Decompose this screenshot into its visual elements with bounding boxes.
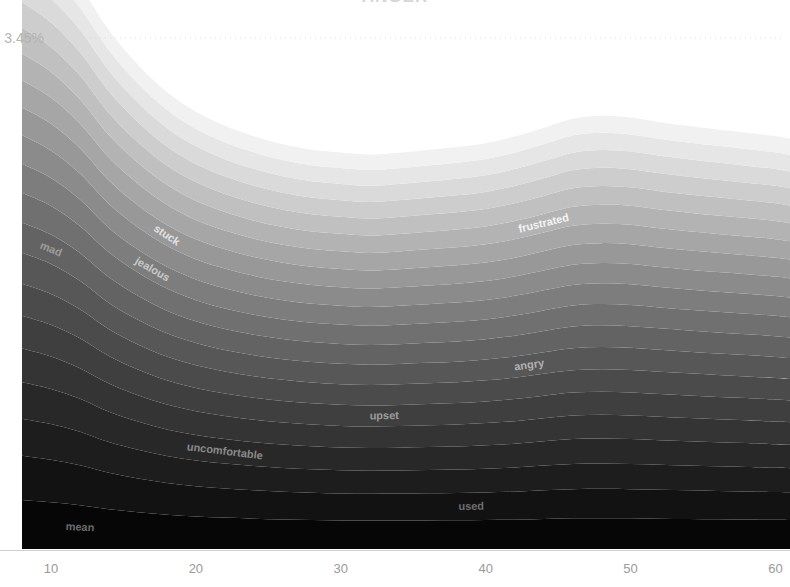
- x-axis: 102030405060: [0, 551, 790, 577]
- y-axis-value-label: 3.45%: [4, 30, 44, 46]
- x-tick-label-60: 60: [768, 561, 782, 576]
- x-tick-label-40: 40: [478, 561, 492, 576]
- x-tick-label-30: 30: [334, 561, 348, 576]
- chart-figure: ANGER meanuseduncomfortableupsetangrymad…: [0, 0, 790, 587]
- streamgraph-plot: meanuseduncomfortableupsetangrymadjealou…: [0, 0, 790, 587]
- x-tick-label-50: 50: [623, 561, 637, 576]
- x-tick-label-10: 10: [44, 561, 58, 576]
- x-tick-label-20: 20: [189, 561, 203, 576]
- y-axis: 3.45%: [4, 30, 44, 46]
- stream-areas: [22, 0, 790, 549]
- stream-label-mean: mean: [65, 520, 95, 533]
- stream-label-used: used: [458, 500, 484, 512]
- stream-label-upset: upset: [369, 409, 399, 422]
